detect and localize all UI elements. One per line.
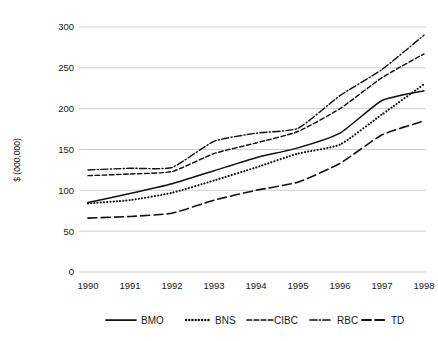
legend-label-rbc: RBC: [337, 315, 358, 326]
legend-label-bmo: BMO: [141, 315, 164, 326]
y-axis-title-text: $ (000,000): [12, 138, 22, 182]
chart-canvas: 050100150200250300 199019911992199319941…: [0, 0, 438, 341]
x-tick-label: 1993: [203, 280, 224, 291]
x-tick-label: 1992: [161, 280, 182, 291]
y-tick-label: 200: [58, 103, 74, 114]
x-tick-label: 1990: [77, 280, 98, 291]
legend-label-cibc: CIBC: [274, 315, 298, 326]
y-tick-label: 50: [63, 226, 74, 237]
legend-label-td: TD: [391, 315, 404, 326]
y-tick-label: 250: [58, 62, 74, 73]
x-tick-label: 1991: [119, 280, 140, 291]
y-tick-label: 150: [58, 144, 74, 155]
x-tick-label: 1997: [371, 280, 392, 291]
line-chart: 050100150200250300 199019911992199319941…: [0, 0, 438, 341]
legend-label-bns: BNS: [215, 315, 236, 326]
x-tick-label: 1995: [287, 280, 308, 291]
y-axis-title: $ (000,000): [12, 138, 22, 182]
x-axis-tick-labels: 199019911992199319941995199619971998: [77, 280, 434, 291]
y-tick-label: 100: [58, 185, 74, 196]
x-tick-label: 1998: [413, 280, 434, 291]
y-tick-label: 300: [58, 21, 74, 32]
x-tick-label: 1994: [245, 280, 266, 291]
x-tick-label: 1996: [329, 280, 350, 291]
y-tick-label: 0: [69, 266, 74, 277]
